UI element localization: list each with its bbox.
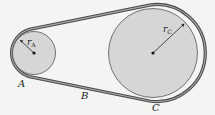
point-b-label: B [80,90,88,101]
point-c-label: C [152,102,160,113]
belt-pulley-diagram: rA rC A B C [0,0,215,115]
point-a-label: A [17,78,25,89]
pulley-a [13,32,56,75]
pulley-c [109,9,198,98]
diagram-canvas: rA rC A B C [0,0,215,115]
